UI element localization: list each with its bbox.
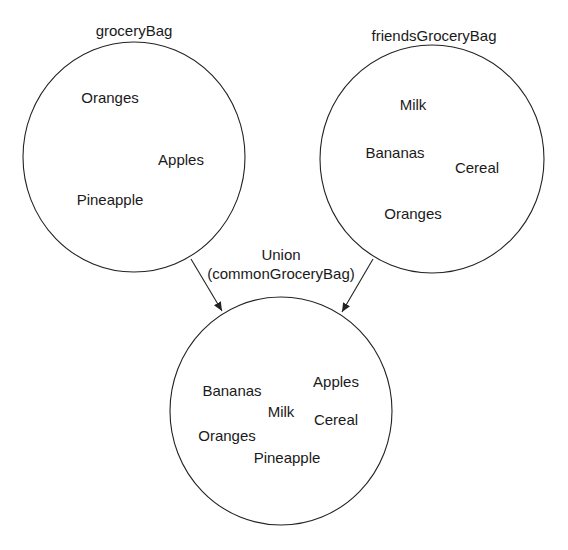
set-item: Milk (268, 403, 295, 420)
set-label-friends-grocery-bag: friendsGroceryBag (371, 27, 496, 44)
set-item: Cereal (455, 159, 499, 176)
set-item: Pineapple (254, 449, 321, 466)
set-item: Cereal (314, 411, 358, 428)
set-item: Bananas (202, 382, 261, 399)
set-item: Apples (158, 151, 204, 168)
operation-result-label: (commonGroceryBag) (207, 265, 355, 282)
set-item: Milk (400, 96, 427, 113)
set-item: Oranges (384, 205, 442, 222)
union-diagram: groceryBag Oranges Apples Pineapple frie… (0, 0, 568, 550)
set-item: Pineapple (77, 191, 144, 208)
operation-label: Union (261, 246, 300, 263)
set-label-grocery-bag: groceryBag (96, 22, 173, 39)
set-item: Oranges (198, 427, 256, 444)
set-circle-grocery-bag (23, 42, 245, 272)
set-item: Oranges (81, 89, 139, 106)
set-circle-friends-grocery-bag (320, 45, 544, 273)
set-friends-grocery-bag: friendsGroceryBag Milk Bananas Cereal Or… (320, 27, 544, 273)
set-common-grocery-bag: Apples Bananas Milk Cereal Oranges Pinea… (170, 297, 392, 525)
set-item: Apples (313, 373, 359, 390)
set-grocery-bag: groceryBag Oranges Apples Pineapple (23, 22, 245, 272)
set-item: Bananas (365, 144, 424, 161)
